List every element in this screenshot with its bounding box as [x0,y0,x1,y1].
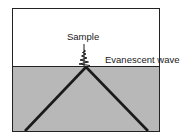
tir-diagram [0,0,195,138]
sample-label: Sample [67,32,99,42]
evanescent-wave-label: Evanescent wave [105,55,179,65]
